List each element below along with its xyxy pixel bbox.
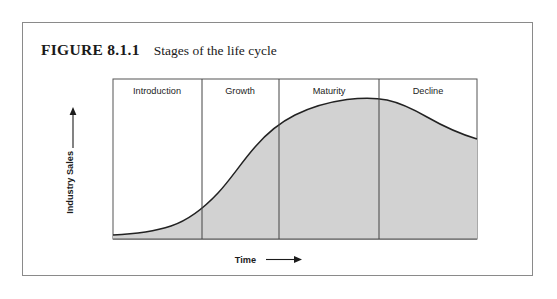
y-axis-arrow-head [70,107,77,115]
stage-label-maturity: Maturity [313,86,346,96]
y-axis-label: Industry Sales [65,151,75,214]
y-axis-group: Industry Sales [65,107,76,214]
x-axis-group: Time [235,255,302,265]
chart-svg: Industry Sales Introduction Growth Matur… [23,23,534,277]
life-cycle-chart: Industry Sales Introduction Growth Matur… [23,23,534,277]
stage-label-growth: Growth [225,86,255,96]
figure-frame: FIGURE 8.1.1Stages of the life cycle Ind… [22,22,533,276]
x-axis-arrow-head [294,256,302,263]
stage-label-decline: Decline [413,86,444,96]
stage-label-introduction: Introduction [133,86,181,96]
x-axis-label: Time [235,255,256,265]
